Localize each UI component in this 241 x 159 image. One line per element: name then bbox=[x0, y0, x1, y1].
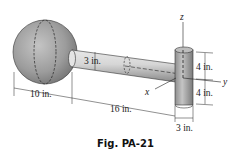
z-axis-label: z bbox=[179, 12, 184, 22]
cylinder-lower-height-label: 4 in. bbox=[196, 88, 213, 98]
figure-caption: Fig. PA-21 bbox=[97, 138, 154, 149]
x-axis: x bbox=[144, 78, 176, 97]
sphere-diameter-label: 10 in. bbox=[30, 89, 52, 99]
cylinder-height-dimensions: 4 in. 4 in. bbox=[196, 52, 213, 105]
end-cylinder bbox=[175, 47, 193, 108]
z-axis: z bbox=[179, 12, 184, 48]
x-axis-label: x bbox=[144, 87, 150, 97]
rod-diameter-label: 3 in. bbox=[84, 56, 101, 66]
rod: 3 in. bbox=[69, 50, 181, 82]
sphere bbox=[13, 20, 77, 84]
cylinder-diameter-label: 3 in. bbox=[176, 123, 193, 133]
y-axis-label: y bbox=[222, 77, 228, 87]
figure-diagram: z 3 in. y x 4 in. 4 in. bbox=[0, 0, 241, 159]
cylinder-upper-height-label: 4 in. bbox=[196, 62, 213, 72]
rod-length-label: 16 in. bbox=[110, 104, 132, 114]
